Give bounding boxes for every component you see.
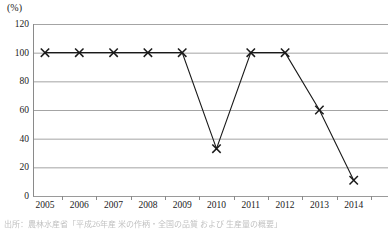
data-point-2013 [315, 106, 323, 114]
x-tick-label-2008: 2008 [138, 199, 157, 211]
x-tick-label-2010: 2010 [207, 199, 226, 211]
chart-figure: (%) 120 100 80 60 40 20 0 20052006200720… [0, 0, 388, 230]
gridlines [33, 25, 388, 197]
x-tick-label-2009: 2009 [173, 199, 192, 211]
data-point-markers [41, 48, 358, 184]
data-point-2010 [212, 145, 220, 153]
y-tick-label-120: 120 [3, 19, 29, 29]
data-point-2014 [350, 176, 358, 184]
y-tick-label-20: 20 [3, 162, 29, 172]
y-axis-unit-label: (%) [7, 2, 22, 13]
y-tick-label-40: 40 [3, 134, 29, 144]
x-tick-label-2005: 2005 [36, 199, 55, 211]
y-tick-label-80: 80 [3, 76, 29, 86]
y-tick-label-100: 100 [3, 48, 29, 58]
axis-lines [33, 24, 34, 197]
x-tick-label-2014: 2014 [344, 199, 363, 211]
line-chart-svg [33, 24, 388, 200]
y-tick-label-60: 60 [3, 105, 29, 115]
data-line [45, 53, 354, 181]
plot-area [33, 24, 388, 196]
x-tick-label-2006: 2006 [70, 199, 89, 211]
x-axis-tick-labels: 2005200620072008200920102011201220132014 [33, 199, 388, 213]
x-tick-label-2011: 2011 [241, 199, 260, 211]
y-axis-tick-labels: 120 100 80 60 40 20 0 [0, 24, 29, 196]
x-tick-label-2013: 2013 [310, 199, 329, 211]
source-caption: 出所：農林水産省「平成26年産 米の作柄・全国の品質 および 生産量の概要」 [4, 219, 388, 230]
x-tick-label-2007: 2007 [104, 199, 123, 211]
y-tick-label-0: 0 [3, 191, 29, 201]
x-tick-label-2012: 2012 [276, 199, 295, 211]
